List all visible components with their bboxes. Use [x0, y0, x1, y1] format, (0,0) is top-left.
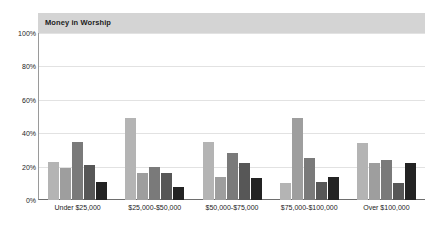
- x-tick-label: $25,000-$50,000: [116, 204, 193, 211]
- bar[interactable]: [369, 163, 380, 200]
- x-tick-label: Under $25,000: [39, 204, 116, 211]
- x-axis: Under $25,000$25,000-$50,000$50,000-$75,…: [39, 204, 425, 211]
- bar[interactable]: [328, 177, 339, 200]
- bar-group: [39, 33, 116, 200]
- bar[interactable]: [239, 163, 250, 200]
- bar[interactable]: [280, 183, 291, 200]
- x-tick-label: $50,000-$75,000: [193, 204, 270, 211]
- chart-title: Money in Worship: [45, 18, 111, 27]
- bar[interactable]: [227, 153, 238, 200]
- y-tick-label: 80%: [2, 63, 36, 70]
- bar[interactable]: [215, 177, 226, 200]
- bar[interactable]: [60, 168, 71, 200]
- chart-title-band: Money in Worship: [38, 13, 425, 33]
- y-tick-label: 100%: [2, 30, 36, 37]
- bar[interactable]: [137, 173, 148, 200]
- bar[interactable]: [405, 163, 416, 200]
- bar[interactable]: [84, 165, 95, 200]
- bar[interactable]: [357, 143, 368, 200]
- bar[interactable]: [304, 158, 315, 200]
- bar[interactable]: [161, 173, 172, 200]
- bar[interactable]: [393, 183, 404, 200]
- bar[interactable]: [48, 162, 59, 200]
- y-tick-label: 40%: [2, 130, 36, 137]
- y-tick-label: 60%: [2, 96, 36, 103]
- bar[interactable]: [125, 118, 136, 200]
- bar[interactable]: [96, 182, 107, 200]
- y-tick-label: 20%: [2, 163, 36, 170]
- bar[interactable]: [292, 118, 303, 200]
- bar-groups: [39, 33, 425, 200]
- bar[interactable]: [251, 178, 262, 200]
- x-tick-label: Over $100,000: [348, 204, 425, 211]
- bar-group: [348, 33, 425, 200]
- y-tick-label: 0%: [2, 197, 36, 204]
- bar[interactable]: [381, 160, 392, 200]
- x-tick-label: $75,000-$100,000: [271, 204, 348, 211]
- bar[interactable]: [173, 187, 184, 200]
- bar[interactable]: [203, 142, 214, 200]
- bar-group: [193, 33, 270, 200]
- bar[interactable]: [72, 142, 83, 200]
- bar[interactable]: [149, 167, 160, 200]
- chart-container: Money in Worship 100%80%60%40%20%0% Unde…: [0, 0, 442, 240]
- bar-group: [116, 33, 193, 200]
- y-axis: 100%80%60%40%20%0%: [0, 33, 36, 200]
- bar-group: [271, 33, 348, 200]
- bar[interactable]: [316, 182, 327, 200]
